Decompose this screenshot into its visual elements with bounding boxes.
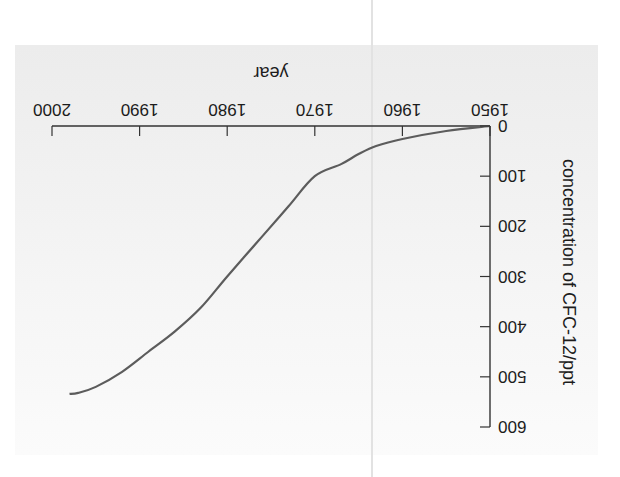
- y-tick-label: 400: [498, 317, 526, 336]
- x-tick-label: 2000: [33, 100, 71, 119]
- y-tick-label: 0: [498, 116, 507, 135]
- y-tick-label: 500: [498, 367, 526, 386]
- y-tick-label: 300: [498, 267, 526, 286]
- y-tick-label: 200: [498, 216, 526, 235]
- chart-svg: 195019601970198019902000 010020030040050…: [0, 0, 620, 477]
- x-axis-ticks: 195019601970198019902000: [33, 100, 509, 136]
- y-tick-label: 600: [498, 417, 526, 436]
- y-axis-ticks: 0100200300400500600: [480, 116, 526, 436]
- x-tick-label: 1970: [296, 100, 334, 119]
- x-tick-label: 1980: [208, 100, 246, 119]
- x-axis-label: year: [253, 63, 288, 83]
- y-axis-label: concentration of CFC-12/ppt: [559, 159, 579, 385]
- cfc12-line: [70, 126, 490, 394]
- x-tick-label: 1990: [121, 100, 159, 119]
- axes: [52, 126, 490, 427]
- rotated-figure: 195019601970198019902000 010020030040050…: [0, 0, 620, 477]
- y-tick-label: 100: [498, 166, 526, 185]
- x-tick-label: 1960: [383, 100, 421, 119]
